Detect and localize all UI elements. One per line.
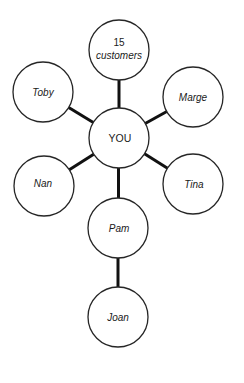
node-tina: Tina bbox=[163, 154, 223, 214]
marge-label: Marge bbox=[179, 92, 208, 103]
toby-label: Toby bbox=[32, 87, 54, 98]
diagram-svg: 15 customers Toby Marge YOU Nan Tina Pam bbox=[0, 0, 244, 383]
edge-you-marge bbox=[145, 112, 167, 124]
you-label: YOU bbox=[109, 132, 132, 144]
pam-label: Pam bbox=[109, 223, 130, 234]
joan-label: Joan bbox=[106, 312, 129, 323]
node-joan: Joan bbox=[88, 287, 148, 347]
node-nan: Nan bbox=[14, 156, 74, 216]
nan-label: Nan bbox=[34, 178, 53, 189]
customers-text-label: customers bbox=[96, 50, 142, 61]
edge-you-toby bbox=[69, 108, 94, 123]
edge-you-nan bbox=[69, 154, 93, 170]
node-marge: Marge bbox=[163, 67, 223, 127]
tina-label: Tina bbox=[184, 179, 204, 190]
edge-you-tina bbox=[145, 154, 168, 168]
node-toby: Toby bbox=[13, 62, 73, 122]
customers-count-label: 15 bbox=[113, 37, 125, 48]
node-you: YOU bbox=[89, 108, 149, 168]
node-pam: Pam bbox=[88, 198, 148, 258]
node-customers: 15 customers bbox=[89, 20, 149, 80]
network-diagram: 15 customers Toby Marge YOU Nan Tina Pam bbox=[0, 0, 244, 383]
